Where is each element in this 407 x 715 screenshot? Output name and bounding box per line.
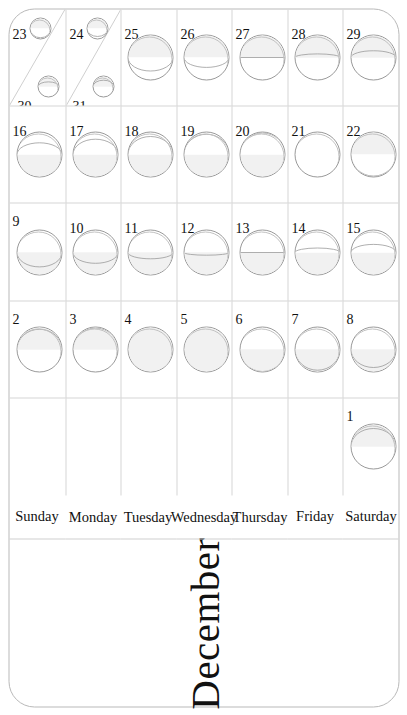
day-number: 9 bbox=[12, 214, 19, 228]
moon-phase-waning-gibbous bbox=[16, 229, 62, 275]
moon-ghost-outline bbox=[294, 36, 339, 80]
moon-ghost-outline bbox=[92, 77, 113, 97]
calendar-day-16[interactable]: 16 bbox=[9, 106, 65, 203]
moon-phase-waxing-crescent bbox=[29, 17, 51, 39]
moon-ghost-outline bbox=[350, 328, 395, 372]
moon-ghost-outline bbox=[16, 133, 61, 177]
calendar-cell-empty bbox=[9, 398, 65, 495]
moon-ghost-outline bbox=[183, 36, 228, 80]
calendar-cell-empty bbox=[287, 398, 343, 495]
calendar-day-25[interactable]: 25 bbox=[120, 9, 176, 106]
calendar-day-26[interactable]: 26 bbox=[176, 9, 232, 106]
moon-ghost-outline bbox=[183, 133, 228, 177]
moon-ghost-outline bbox=[183, 328, 228, 372]
day-number: 5 bbox=[180, 312, 187, 326]
calendar-day-22[interactable]: 22 bbox=[342, 106, 398, 203]
moon-ghost-outline bbox=[29, 19, 50, 39]
calendar-cell-empty bbox=[65, 398, 121, 495]
weekday-label-text: Sunday bbox=[15, 508, 59, 525]
calendar-day-4[interactable]: 4 bbox=[120, 301, 176, 398]
moon-phase-waning-crescent bbox=[127, 131, 173, 177]
moon-ghost-outline bbox=[350, 425, 395, 469]
moon-ghost-outline bbox=[16, 328, 61, 372]
moon-phase-waxing-gibbous bbox=[72, 326, 118, 372]
day-number: 3 bbox=[69, 312, 76, 326]
weekday-label-thursday: Thursday bbox=[231, 495, 287, 539]
calendar-day-12[interactable]: 12 bbox=[176, 203, 232, 300]
calendar-day-1[interactable]: 1 bbox=[342, 398, 398, 495]
weekday-label-text: Saturday bbox=[344, 508, 396, 525]
weekday-label-wednesday: Wednesday bbox=[176, 495, 232, 539]
moon-phase-waning-gibbous bbox=[72, 229, 118, 275]
calendar-day-7[interactable]: 7 bbox=[287, 301, 343, 398]
calendar-cell-empty bbox=[231, 398, 287, 495]
calendar-day-3[interactable]: 3 bbox=[65, 301, 121, 398]
weekday-label-text: Monday bbox=[68, 508, 116, 525]
rotated-page-stage: December SundayMondayTuesdayWednesdayThu… bbox=[0, 0, 407, 715]
calendar-day-8[interactable]: 8 bbox=[342, 301, 398, 398]
moon-phase-waning-gibbous bbox=[183, 229, 229, 275]
moon-phase-waxing-crescent bbox=[86, 17, 108, 39]
moon-phase-waning-crescent bbox=[350, 229, 396, 275]
calendar-day-21[interactable]: 21 bbox=[287, 106, 343, 203]
calendar-day-18[interactable]: 18 bbox=[120, 106, 176, 203]
moon-ghost-outline bbox=[350, 133, 395, 177]
moon-ghost-outline bbox=[72, 133, 117, 177]
calendar-day-24[interactable]: 2431 bbox=[65, 9, 121, 106]
day-number: 23 bbox=[12, 27, 26, 41]
moon-phase-waxing-gibbous bbox=[92, 75, 114, 97]
weekday-label-text: Friday bbox=[296, 508, 334, 525]
day-number-secondary: 30 bbox=[17, 99, 31, 106]
calendar-day-13[interactable]: 13 bbox=[231, 203, 287, 300]
calendar-day-9[interactable]: 9 bbox=[9, 203, 65, 300]
weekday-label-friday: Friday bbox=[287, 495, 343, 539]
calendar-day-28[interactable]: 28 bbox=[287, 9, 343, 106]
day-number: 7 bbox=[291, 312, 298, 326]
calendar-day-17[interactable]: 17 bbox=[65, 106, 121, 203]
calendar-day-15[interactable]: 15 bbox=[342, 203, 398, 300]
calendar-day-19[interactable]: 19 bbox=[176, 106, 232, 203]
moon-ghost-outline bbox=[127, 133, 172, 177]
calendar-day-23[interactable]: 2330 bbox=[9, 9, 65, 106]
calendar-day-6[interactable]: 6 bbox=[231, 301, 287, 398]
moon-ghost-outline bbox=[239, 231, 284, 275]
moon-phase-waxing-gibbous bbox=[37, 75, 59, 97]
moon-phase-waxing-gibbous bbox=[350, 423, 396, 469]
moon-phase-waning-crescent bbox=[183, 131, 229, 177]
moon-ghost-outline bbox=[294, 231, 339, 275]
moon-phase-last-quarter bbox=[239, 229, 285, 275]
day-number: 2 bbox=[12, 312, 19, 326]
calendar-day-27[interactable]: 27 bbox=[231, 9, 287, 106]
moon-ghost-outline bbox=[294, 133, 339, 177]
moon-phase-waning-gibbous bbox=[294, 326, 340, 372]
moon-phase-full-moon bbox=[127, 326, 173, 372]
calendar-day-14[interactable]: 14 bbox=[287, 203, 343, 300]
weekday-label-text: Thursday bbox=[232, 508, 287, 525]
calendar-page: December SundayMondayTuesdayWednesdayThu… bbox=[0, 0, 407, 715]
weekday-label-monday: Monday bbox=[65, 495, 121, 539]
calendar-day-2[interactable]: 2 bbox=[9, 301, 65, 398]
moon-phase-new-moon bbox=[294, 131, 340, 177]
day-number: 4 bbox=[124, 312, 131, 326]
moon-ghost-outline bbox=[127, 36, 172, 80]
calendar-day-10[interactable]: 10 bbox=[65, 203, 121, 300]
calendar-day-20[interactable]: 20 bbox=[231, 106, 287, 203]
calendar-day-29[interactable]: 29 bbox=[342, 9, 398, 106]
calendar-cell-empty bbox=[176, 398, 232, 495]
moon-ghost-outline bbox=[127, 328, 172, 372]
moon-phase-new-moon bbox=[239, 131, 285, 177]
moon-ghost-outline bbox=[183, 231, 228, 275]
moon-phase-waning-crescent bbox=[72, 131, 118, 177]
moon-phase-waxing-gibbous bbox=[350, 34, 396, 80]
moon-phase-waxing-gibbous bbox=[294, 34, 340, 80]
moon-phase-waning-gibbous bbox=[239, 326, 285, 372]
calendar-day-11[interactable]: 11 bbox=[120, 203, 176, 300]
weekday-label-tuesday: Tuesday bbox=[120, 495, 176, 539]
day-number: 6 bbox=[235, 312, 242, 326]
moon-ghost-outline bbox=[239, 133, 284, 177]
weekday-label-saturday: Saturday bbox=[342, 495, 398, 539]
day-number-secondary: 31 bbox=[72, 99, 86, 106]
moon-ghost-outline bbox=[350, 231, 395, 275]
calendar-day-5[interactable]: 5 bbox=[176, 301, 232, 398]
page-title: December bbox=[8, 539, 399, 707]
